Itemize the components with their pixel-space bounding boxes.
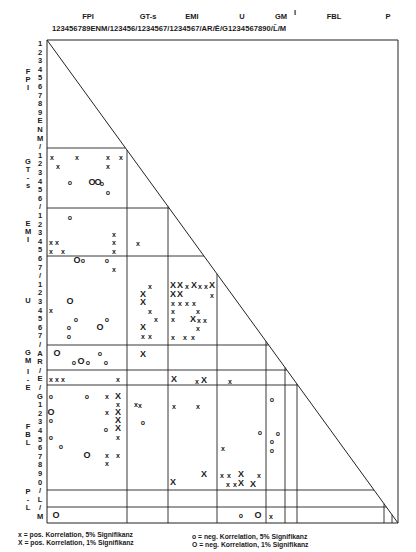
negative-correlation-mark: O bbox=[47, 409, 54, 416]
row-group-fbl: FBL bbox=[24, 423, 32, 447]
positive-correlation-mark: x bbox=[192, 300, 196, 307]
positive-correlation-mark: x bbox=[112, 248, 116, 255]
positive-correlation-mark: x bbox=[105, 409, 109, 416]
negative-correlation-mark: o bbox=[104, 426, 108, 433]
positive-correlation-mark: x bbox=[112, 231, 116, 238]
positive-correlation-mark: x bbox=[196, 403, 200, 410]
positive-correlation-mark: x bbox=[138, 402, 142, 409]
negative-correlation-mark: O bbox=[73, 257, 80, 264]
row-label: 6 bbox=[36, 255, 44, 263]
row-label: 3 bbox=[36, 169, 44, 177]
positive-correlation-mark: x bbox=[49, 248, 53, 255]
positive-correlation-mark: x bbox=[116, 376, 120, 383]
row-group-emi: EMI bbox=[24, 220, 32, 244]
negative-correlation-mark: O bbox=[96, 324, 103, 331]
positive-correlation-mark: x bbox=[196, 308, 200, 315]
positive-correlation-mark: x bbox=[227, 472, 231, 479]
positive-correlation-mark: x bbox=[154, 316, 158, 323]
negative-correlation-mark: o bbox=[59, 443, 63, 450]
positive-correlation-mark: x bbox=[191, 334, 195, 341]
negative-correlation-mark: O bbox=[53, 350, 60, 357]
row-label: 5 bbox=[36, 315, 44, 323]
positive-correlation-mark: X bbox=[170, 291, 176, 298]
row-group-ie: I-E bbox=[24, 368, 32, 392]
negative-correlation-mark: o bbox=[98, 350, 102, 357]
positive-correlation-mark: x bbox=[106, 163, 110, 170]
row-label: 3 bbox=[36, 57, 44, 65]
negative-correlation-mark: o bbox=[270, 396, 274, 403]
positive-correlation-mark: X bbox=[201, 377, 207, 384]
positive-correlation-mark: x bbox=[106, 154, 110, 161]
positive-correlation-mark: x bbox=[220, 472, 224, 479]
positive-correlation-mark: x bbox=[185, 300, 189, 307]
negative-correlation-mark: o bbox=[239, 512, 243, 519]
positive-correlation-mark: x bbox=[185, 283, 189, 290]
positive-correlation-mark: x bbox=[171, 334, 175, 341]
positive-correlation-mark: X bbox=[201, 471, 207, 478]
row-label: 5 bbox=[36, 186, 44, 194]
negative-correlation-mark: o bbox=[276, 430, 280, 437]
positive-correlation-mark: X bbox=[115, 425, 121, 432]
negative-correlation-mark: o bbox=[85, 393, 89, 400]
positive-correlation-mark: x bbox=[204, 283, 208, 290]
negative-correlation-mark: o bbox=[104, 359, 108, 366]
positive-correlation-mark: X bbox=[170, 479, 176, 486]
positive-correlation-mark: X bbox=[238, 480, 244, 487]
positive-correlation-mark: X bbox=[238, 471, 244, 478]
row-label: 6 bbox=[36, 83, 44, 91]
positive-correlation-mark: x bbox=[172, 403, 176, 410]
row-label: 1 bbox=[36, 212, 44, 220]
row-label: / bbox=[36, 143, 44, 151]
positive-correlation-mark: X bbox=[171, 376, 177, 383]
positive-correlation-mark: x bbox=[105, 393, 109, 400]
positive-correlation-mark: x bbox=[61, 248, 65, 255]
positive-correlation-mark: x bbox=[171, 316, 175, 323]
row-group-gm: GM bbox=[24, 349, 32, 365]
positive-correlation-mark: X bbox=[191, 282, 197, 289]
negative-correlation-mark: o bbox=[106, 189, 110, 196]
positive-correlation-mark: x bbox=[112, 266, 116, 273]
negative-correlation-mark: o bbox=[49, 393, 53, 400]
row-label: 8 bbox=[36, 100, 44, 108]
negative-correlation-mark: o bbox=[105, 316, 109, 323]
negative-correlation-mark: o bbox=[105, 257, 109, 264]
correlation-grid bbox=[0, 0, 416, 552]
positive-correlation-mark: x bbox=[171, 300, 175, 307]
legend-pos-1: X = pos. Korrelation, 1% Signifikanz bbox=[18, 539, 134, 547]
positive-correlation-mark: x bbox=[198, 283, 202, 290]
positive-correlation-mark: X bbox=[250, 481, 256, 488]
positive-correlation-mark: x bbox=[61, 376, 65, 383]
positive-correlation-mark: x bbox=[228, 378, 232, 385]
positive-correlation-mark: x bbox=[50, 154, 54, 161]
positive-correlation-mark: x bbox=[49, 376, 53, 383]
row-label: 1 bbox=[36, 401, 44, 409]
positive-correlation-mark: X bbox=[140, 351, 146, 358]
negative-correlation-mark: O bbox=[77, 358, 84, 365]
row-group-pl: P-L bbox=[24, 488, 32, 512]
row-label: M bbox=[36, 513, 44, 521]
legend-pos-5: x = pos. Korrelation, 5% Signifikanz bbox=[18, 531, 134, 539]
negative-correlation-mark: o bbox=[67, 324, 71, 331]
legend-positive: x = pos. Korrelation, 5% Signifikanz X =… bbox=[18, 531, 134, 547]
positive-correlation-mark: x bbox=[55, 376, 59, 383]
negative-correlation-mark: o bbox=[270, 438, 274, 445]
positive-correlation-mark: x bbox=[171, 308, 175, 315]
negative-correlation-mark: o bbox=[68, 214, 72, 221]
negative-correlation-mark: o bbox=[49, 434, 53, 441]
positive-correlation-mark: X bbox=[190, 316, 196, 323]
negative-correlation-mark: o bbox=[81, 257, 85, 264]
negative-correlation-mark: O bbox=[52, 512, 59, 519]
positive-correlation-mark: x bbox=[141, 333, 145, 340]
positive-correlation-mark: x bbox=[183, 334, 187, 341]
positive-correlation-mark: x bbox=[196, 325, 200, 332]
row-label: / bbox=[36, 341, 44, 349]
positive-correlation-mark: x bbox=[233, 481, 237, 488]
positive-correlation-mark: X bbox=[140, 299, 146, 306]
positive-correlation-mark: x bbox=[210, 292, 214, 299]
positive-correlation-mark: x bbox=[257, 472, 261, 479]
negative-correlation-mark: o bbox=[74, 316, 78, 323]
negative-correlation-mark: O bbox=[83, 452, 90, 459]
negative-correlation-mark: o bbox=[141, 419, 145, 426]
positive-correlation-mark: x bbox=[136, 240, 140, 247]
negative-correlation-mark: o bbox=[72, 359, 76, 366]
